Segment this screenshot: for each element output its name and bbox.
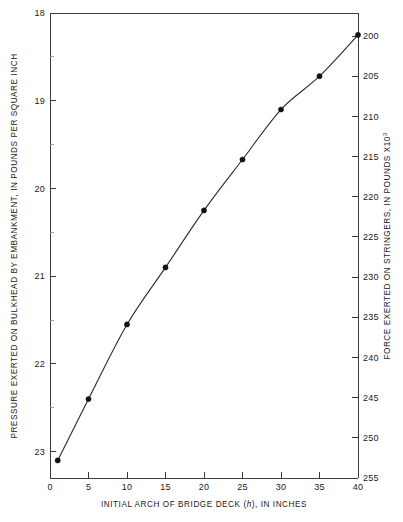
y2-tick-label: 205 [363, 71, 379, 81]
y-tick-label: 19 [35, 96, 45, 106]
y2-tick-label: 220 [363, 192, 379, 202]
y-tick-label: 20 [35, 184, 45, 194]
y2-tick-label: 210 [363, 112, 379, 122]
x-tick-label: 25 [237, 482, 247, 492]
chart-canvas: 181920212223 200205210215220225230235240… [0, 0, 403, 522]
y-tick-label: 18 [35, 8, 45, 18]
right-axis: 200205210215220225230235240245250255 [352, 31, 379, 483]
y-tick-label: 22 [35, 359, 45, 369]
x-tick-label: 20 [199, 482, 209, 492]
data-point [355, 32, 360, 37]
y-tick-label: 23 [35, 447, 45, 457]
data-point [124, 322, 129, 327]
x-tick-label: 10 [122, 482, 132, 492]
left-axis: 181920212223 [35, 8, 56, 457]
x-tick-label: 0 [47, 482, 52, 492]
y2-tick-label: 240 [363, 353, 379, 363]
data-point [163, 265, 168, 270]
x-tick-label: 35 [314, 482, 324, 492]
y2-tick-label: 255 [363, 473, 379, 483]
y2-tick-label: 245 [363, 393, 379, 403]
chart-figure: 181920212223 200205210215220225230235240… [0, 0, 403, 522]
data-point [201, 208, 206, 213]
y2-tick-label: 235 [363, 312, 379, 322]
data-point [278, 107, 283, 112]
y2-axis-title: FORCE EXERTED ON STRINGERS, IN POUNDS X1… [382, 132, 392, 359]
data-series [55, 32, 361, 463]
y2-tick-label: 215 [363, 152, 379, 162]
data-point [317, 74, 322, 79]
x-axis-title: INITIAL ARCH OF BRIDGE DECK (h), IN INCH… [101, 500, 307, 509]
x-tick-label: 5 [86, 482, 91, 492]
y-axis-title: PRESSURE EXERTED ON BULKHEAD BY EMBANKME… [10, 53, 19, 438]
data-point [86, 396, 91, 401]
y2-tick-label: 200 [363, 31, 379, 41]
y2-tick-label: 225 [363, 232, 379, 242]
y2-tick-label: 250 [363, 433, 379, 443]
y2-tick-label: 230 [363, 272, 379, 282]
x-tick-label: 30 [276, 482, 286, 492]
x-tick-label: 40 [353, 482, 363, 492]
y-tick-label: 21 [35, 271, 45, 281]
data-point [55, 458, 60, 463]
x-tick-label: 15 [160, 482, 170, 492]
bottom-axis: 0510152025303540 [47, 472, 363, 492]
data-point [240, 157, 245, 162]
data-curve [58, 35, 358, 461]
